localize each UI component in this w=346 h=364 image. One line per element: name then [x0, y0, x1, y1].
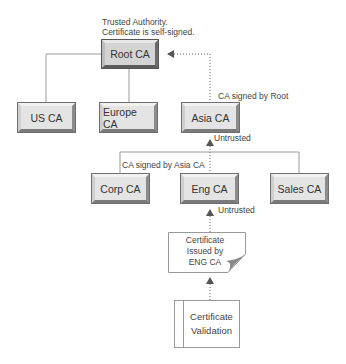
node-root-ca: Root CA	[102, 40, 158, 68]
node-corp-ca: Corp CA	[92, 174, 149, 203]
certificate-text: Certificate Issued by ENG CA	[168, 235, 242, 268]
node-label: Corp CA	[100, 183, 140, 195]
node-label: Asia CA	[192, 112, 230, 124]
certificate-document: Certificate Issued by ENG CA	[168, 232, 246, 273]
node-label: US CA	[30, 112, 62, 124]
node-label: Europe CA	[103, 106, 154, 130]
node-europe-ca: Europe CA	[100, 103, 157, 132]
edge-asia-root	[168, 54, 210, 103]
eng-untrusted-label: Untrusted	[218, 205, 255, 215]
corp-signed-label: CA signed by Asia CA	[122, 160, 205, 170]
node-label: Eng CA	[191, 183, 227, 195]
node-label: Sales CA	[278, 183, 322, 195]
certificate-validation-process: Certificate Validation	[174, 300, 240, 348]
root-note-line2: Certificate is self-signed.	[102, 27, 195, 37]
cert-line2: Issued by	[168, 246, 242, 257]
node-asia-ca: Asia CA	[182, 103, 239, 132]
node-sales-ca: Sales CA	[271, 174, 328, 203]
asia-signed-label: CA signed by Root	[218, 91, 288, 101]
cert-line3: ENG CA	[168, 257, 242, 268]
validation-line1: Certificate	[184, 310, 239, 324]
asia-untrusted-label: Untrusted	[214, 133, 251, 143]
edge-root-us	[46, 54, 102, 103]
node-eng-ca: Eng CA	[181, 174, 238, 203]
root-note-line1: Trusted Authority.	[102, 17, 168, 27]
cert-line1: Certificate	[168, 235, 242, 246]
validation-text: Certificate Validation	[184, 310, 239, 338]
certificate-chain-diagram: Trusted Authority. Certificate is self-s…	[0, 0, 346, 364]
validation-line2: Validation	[184, 324, 239, 338]
node-us-ca: US CA	[18, 103, 75, 132]
node-label: Root CA	[110, 48, 150, 60]
